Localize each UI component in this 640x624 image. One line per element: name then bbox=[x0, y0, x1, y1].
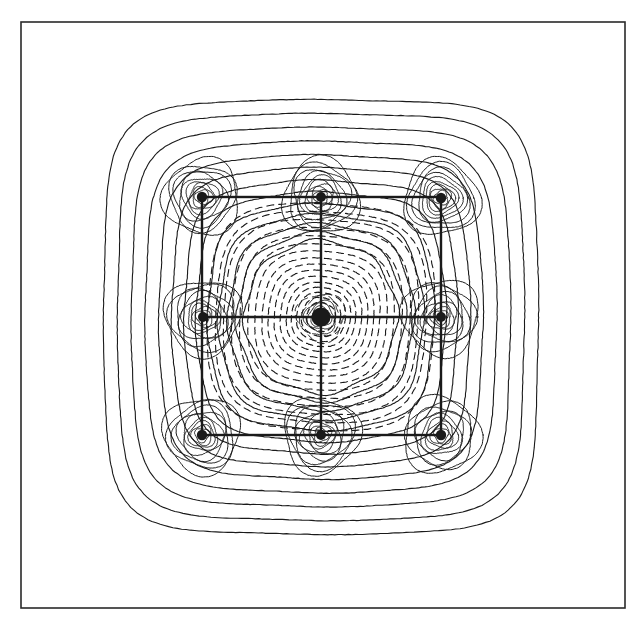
atom-site-center-atom bbox=[312, 308, 331, 327]
atom-site-corner-top-left bbox=[197, 192, 207, 202]
atom-site-corner-bottom-left bbox=[197, 430, 207, 440]
atom-site-edge-middle-right bbox=[436, 312, 446, 322]
atom-site-edge-top-center bbox=[316, 192, 326, 202]
contour-plot-canvas bbox=[0, 0, 640, 624]
atom-site-corner-bottom-right bbox=[436, 430, 446, 440]
atom-site-edge-bottom-center bbox=[316, 430, 326, 440]
figure-root: 19 4 bbox=[0, 0, 640, 624]
atom-site-edge-middle-left bbox=[198, 312, 208, 322]
atom-site-corner-top-right bbox=[436, 193, 446, 203]
